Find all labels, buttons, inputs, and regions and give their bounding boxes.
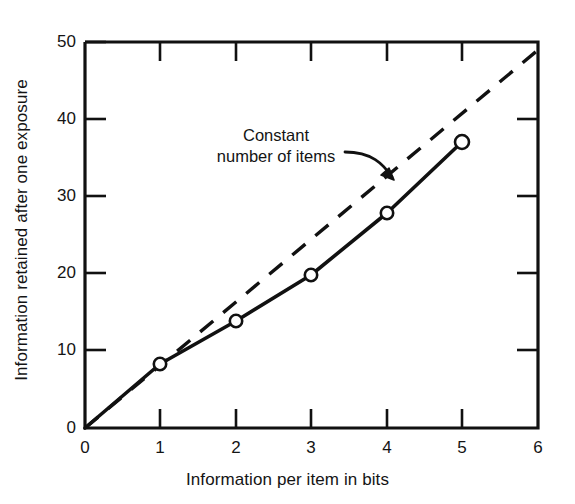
- x-tick-label-1: 1: [155, 438, 164, 458]
- chart-figure: 50 40 30 20 10 0 0 1 2 3 4 5 6 Informati…: [0, 0, 575, 504]
- y-axis-title: Information retained after one exposure: [12, 79, 32, 381]
- x-tick-label-5: 5: [457, 438, 466, 458]
- x-tick-label-6: 6: [533, 438, 542, 458]
- plot-area-svg: [0, 0, 575, 504]
- x-tick-label-0: 0: [80, 438, 89, 458]
- y-axis-ticks-left: [85, 42, 106, 350]
- data-point-5: [455, 135, 469, 149]
- y-axis-ticks-right: [517, 119, 538, 350]
- annotation-line-1: Constant: [196, 125, 356, 146]
- data-point-1: [154, 358, 166, 370]
- data-point-4: [381, 207, 393, 219]
- x-axis-ticks-bottom: [160, 409, 462, 428]
- x-tick-label-2: 2: [231, 438, 240, 458]
- x-tick-label-3: 3: [306, 438, 315, 458]
- data-point-3: [305, 269, 317, 281]
- x-axis-ticks-top: [160, 42, 462, 61]
- annotation-label: Constant number of items: [196, 125, 356, 167]
- x-tick-label-4: 4: [382, 438, 391, 458]
- x-axis-title: Information per item in bits: [0, 470, 575, 490]
- data-markers: [154, 135, 469, 370]
- annotation-line-2: number of items: [196, 146, 356, 167]
- data-line: [85, 142, 462, 428]
- data-point-2: [230, 315, 242, 327]
- y-axis-title-container: Information retained after one exposure: [0, 0, 44, 460]
